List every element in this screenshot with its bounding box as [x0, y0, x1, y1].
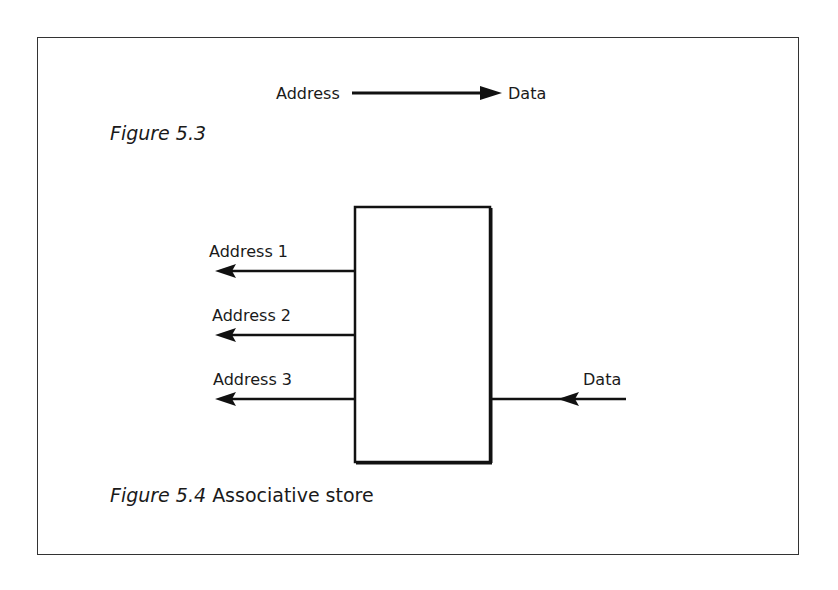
- data-label: Data: [508, 86, 546, 102]
- address-to-data-arrow: [352, 86, 502, 100]
- figure-5-3-caption: Figure 5.3: [110, 124, 206, 143]
- associative-store-box: [355, 207, 492, 463]
- figure-5-4-number: Figure 5.4: [110, 484, 206, 506]
- figure-5-4-title: Associative store: [212, 484, 374, 506]
- address-3-label: Address 3: [213, 372, 292, 388]
- address-1-label: Address 1: [209, 244, 288, 260]
- figure-5-4-caption: Figure 5.4 Associative store: [110, 486, 374, 505]
- address-label: Address: [276, 86, 340, 102]
- address-3-arrow: [215, 392, 355, 406]
- address-1-arrow: [215, 264, 355, 278]
- address-2-arrow: [215, 328, 355, 342]
- data-input-label: Data: [583, 372, 621, 388]
- data-input-arrow: [492, 392, 626, 406]
- address-2-label: Address 2: [212, 308, 291, 324]
- figure-5-3-number: Figure 5.3: [110, 122, 206, 144]
